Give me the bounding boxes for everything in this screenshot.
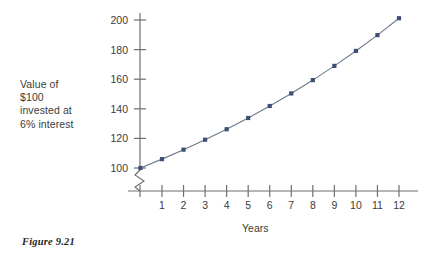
- y-axis-tick-label: 160: [110, 73, 128, 85]
- y-axis-tick-label: 200: [110, 14, 128, 26]
- x-axis-tick-label: 1: [159, 199, 165, 211]
- series-line: [140, 18, 399, 168]
- x-axis-tick-label: 6: [267, 199, 273, 211]
- data-point-marker: [225, 127, 229, 131]
- x-axis-tick-label: 10: [350, 199, 362, 211]
- data-series-compound-interest: [138, 16, 401, 170]
- y-axis-tick-label: 120: [110, 132, 128, 144]
- data-point-marker: [354, 49, 358, 53]
- y-axis-tick-label: 100: [110, 162, 128, 174]
- x-axis: 123456789101112: [128, 185, 418, 211]
- line-chart-plot: 100120140160180200 123456789101112: [0, 0, 429, 264]
- data-point-marker: [375, 33, 379, 37]
- x-axis-tick-label: 8: [310, 199, 316, 211]
- x-axis-tick-label: 5: [245, 199, 251, 211]
- x-axis-tick-label: 7: [288, 199, 294, 211]
- data-point-marker: [268, 104, 272, 108]
- x-axis-tick-label: 4: [224, 199, 230, 211]
- y-axis-tick-label: 140: [110, 103, 128, 115]
- y-axis-tick-label: 180: [110, 44, 128, 56]
- data-point-marker: [181, 148, 185, 152]
- data-point-marker: [311, 78, 315, 82]
- figure-container: Value of $100 invested at 6% interest 10…: [0, 0, 429, 264]
- data-point-marker: [203, 138, 207, 142]
- x-axis-tick-label: 2: [181, 199, 187, 211]
- data-point-marker: [332, 64, 336, 68]
- data-point-marker: [397, 16, 401, 20]
- data-point-marker: [246, 116, 250, 120]
- data-point-marker: [289, 91, 293, 95]
- x-axis-tick-label: 11: [372, 199, 383, 211]
- data-point-marker: [160, 157, 164, 161]
- x-axis-tick-label: 3: [202, 199, 208, 211]
- y-axis: 100120140160180200: [110, 13, 146, 191]
- data-point-marker: [138, 166, 142, 170]
- x-axis-label: Years: [242, 222, 268, 234]
- x-axis-tick-label: 12: [393, 199, 405, 211]
- figure-caption: Figure 9.21: [22, 236, 75, 247]
- x-axis-tick-label: 9: [331, 199, 337, 211]
